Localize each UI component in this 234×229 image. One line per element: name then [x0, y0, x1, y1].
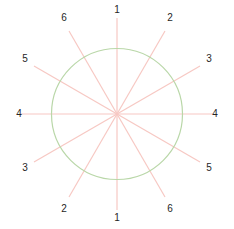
- polar-chart-canvas: [0, 0, 234, 229]
- spoke-lines-group: [21, 18, 213, 210]
- axis-tick-label-right-lower: 5: [206, 163, 212, 173]
- axis-tick-label-right-upper: 3: [206, 54, 212, 64]
- axis-tick-label-bottom: 1: [114, 213, 120, 223]
- axis-tick-label-bottom-right: 6: [167, 204, 173, 214]
- axis-tick-label-top-right: 2: [167, 13, 173, 23]
- axis-tick-label-top-left: 6: [61, 13, 67, 23]
- axis-tick-label-left: 4: [16, 109, 22, 119]
- axis-tick-label-bottom-left: 2: [61, 204, 67, 214]
- polar-chart-figure: 123456123456: [0, 0, 234, 229]
- axis-tick-label-right: 4: [212, 109, 218, 119]
- axis-tick-label-left-upper: 5: [22, 54, 28, 64]
- axis-tick-label-top: 1: [114, 5, 120, 15]
- axis-tick-label-left-lower: 3: [22, 163, 28, 173]
